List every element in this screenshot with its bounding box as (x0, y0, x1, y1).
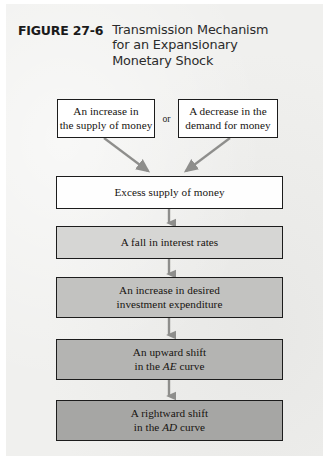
arrow-money-demand-to-excess-supply (168, 136, 238, 180)
connector-label-or: or (155, 99, 178, 138)
node-investment-line-1: An increase in desired (119, 284, 220, 297)
node-money-demand: A decrease in the demand for money (178, 99, 278, 138)
node-excess-supply-line-1: Excess supply of money (114, 186, 224, 199)
node-money-supply: An increase in the supply of money (57, 99, 155, 138)
node-interest-rates: A fall in interest rates (56, 226, 283, 259)
node-investment: An increase in desired investment expend… (56, 277, 283, 318)
arrow-investment-to-ae-shift (162, 316, 176, 341)
node-ad-shift-line-1: A rightward shift (131, 407, 208, 420)
node-investment-line-2: investment expenditure (117, 298, 223, 311)
node-ad-shift-line-2: in the AD curve (134, 421, 205, 434)
node-money-demand-line-2: demand for money (185, 119, 270, 132)
node-ad-shift: A rightward shift in the AD curve (56, 400, 283, 441)
node-ae-shift-line-1: An upward shift (133, 346, 206, 359)
node-money-demand-line-1: A decrease in the (189, 105, 267, 118)
node-interest-rates-line-1: A fall in interest rates (121, 236, 219, 249)
arrow-ae-shift-to-ad-shift (162, 378, 176, 402)
node-ae-shift-line-2: in the AE curve (134, 360, 204, 373)
node-excess-supply: Excess supply of money (56, 176, 283, 209)
node-ae-shift: An upward shift in the AE curve (56, 339, 283, 380)
flowchart: An increase in the supply of money or A … (0, 0, 334, 469)
node-money-supply-line-1: An increase in (73, 105, 138, 118)
arrow-money-supply-to-excess-supply (100, 136, 170, 180)
node-money-supply-line-2: the supply of money (60, 119, 153, 132)
